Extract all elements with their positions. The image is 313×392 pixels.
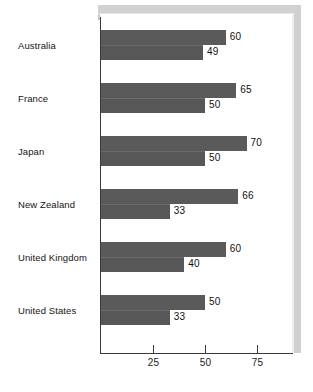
bar-upper	[101, 242, 226, 257]
bar-lower	[101, 151, 205, 166]
bar-value-label-upper: 66	[242, 190, 254, 201]
bar-divider	[101, 310, 170, 311]
bar-divider	[101, 257, 184, 258]
x-tick-label: 75	[252, 357, 264, 368]
x-tick-label: 25	[148, 357, 160, 368]
bar-value-label-upper: 50	[209, 296, 221, 307]
category-label: New Zealand	[18, 199, 75, 210]
bar-divider	[101, 98, 205, 99]
bar-value-label-lower: 50	[209, 99, 221, 110]
bar-lower	[101, 45, 203, 60]
bar-lower	[101, 257, 184, 272]
bar-divider	[101, 45, 203, 46]
category-label: Australia	[18, 40, 56, 51]
bar-upper	[101, 136, 247, 151]
bar-value-label-lower: 33	[174, 311, 186, 322]
category-label: United States	[18, 305, 76, 316]
bar-chart: 255075 AustraliaFranceJapanNew ZealandUn…	[0, 0, 313, 392]
category-label: Japan	[18, 146, 44, 157]
bar-value-label-upper: 70	[251, 137, 263, 148]
category-label: United Kingdom	[18, 252, 87, 263]
bar-value-label-lower: 49	[207, 46, 219, 57]
bar-value-label-upper: 60	[230, 31, 242, 42]
bar-value-label-lower: 50	[209, 152, 221, 163]
x-tick-mark	[153, 345, 154, 353]
bar-value-label-lower: 40	[188, 258, 200, 269]
bar-divider	[101, 204, 170, 205]
bar-value-label-upper: 65	[240, 84, 252, 95]
bar-value-label-lower: 33	[174, 205, 186, 216]
x-axis-line	[100, 353, 293, 354]
bar-lower	[101, 310, 170, 325]
x-tick-label: 50	[200, 357, 212, 368]
x-tick-mark	[205, 345, 206, 353]
bar-upper	[101, 189, 238, 204]
bar-upper	[101, 83, 236, 98]
bar-lower	[101, 204, 170, 219]
bar-upper	[101, 30, 226, 45]
bar-divider	[101, 151, 205, 152]
bar-lower	[101, 98, 205, 113]
bar-upper	[101, 295, 205, 310]
bar-value-label-upper: 60	[230, 243, 242, 254]
x-tick-mark	[257, 345, 258, 353]
category-label: France	[18, 93, 48, 104]
